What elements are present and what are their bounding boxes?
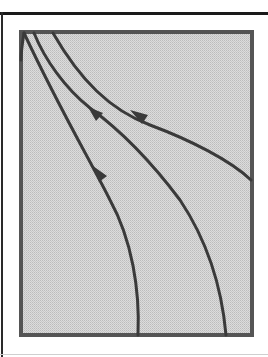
flow-diagram — [0, 0, 268, 357]
